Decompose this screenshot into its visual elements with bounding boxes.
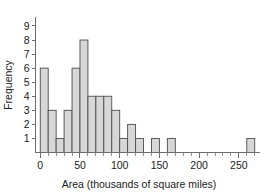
y-tick-label: 8 [24, 34, 30, 46]
y-tick-label: 3 [24, 104, 30, 116]
histogram-bar [88, 96, 96, 152]
histogram-bar [64, 110, 72, 152]
x-axis-title: Area (thousands of square miles) [62, 178, 217, 190]
histogram-bar [96, 96, 104, 152]
y-tick-label: 5 [24, 76, 30, 88]
histogram-bar [120, 138, 128, 152]
x-axis [36, 153, 260, 158]
y-tick-labels: 123456789 [24, 20, 30, 144]
y-axis [32, 17, 36, 153]
histogram-bar [112, 110, 120, 152]
x-tick-label: 150 [151, 159, 169, 171]
histogram-bar [247, 138, 255, 152]
x-tick-label: 0 [37, 159, 43, 171]
y-tick-label: 6 [24, 62, 30, 74]
y-tick-label: 4 [24, 90, 30, 102]
y-tick-label: 7 [24, 48, 30, 60]
histogram-bar [151, 138, 159, 152]
histogram-bar [56, 138, 64, 152]
histogram-chart: 050100150200250 123456789 Area (thousand… [0, 0, 266, 196]
x-tick-label: 100 [111, 159, 129, 171]
y-tick-label: 1 [24, 132, 30, 144]
histogram-bar [104, 96, 112, 152]
x-tick-label: 50 [74, 159, 86, 171]
histogram-bar [48, 110, 56, 152]
bars-group [40, 40, 254, 153]
histogram-bar [72, 68, 80, 152]
x-tick-labels: 050100150200250 [37, 159, 247, 171]
x-tick-label: 200 [190, 159, 208, 171]
histogram-bar [136, 138, 144, 152]
x-tick-label: 250 [230, 159, 248, 171]
y-tick-label: 9 [24, 20, 30, 32]
plot-area: 050100150200250 123456789 [24, 17, 260, 171]
chart-svg: 050100150200250 123456789 Area (thousand… [0, 0, 266, 196]
histogram-bar [167, 138, 175, 152]
histogram-bar [80, 40, 88, 153]
histogram-bar [40, 68, 48, 152]
y-axis-title: Frequency [2, 59, 14, 109]
histogram-bar [128, 124, 136, 152]
y-tick-label: 2 [24, 118, 30, 130]
